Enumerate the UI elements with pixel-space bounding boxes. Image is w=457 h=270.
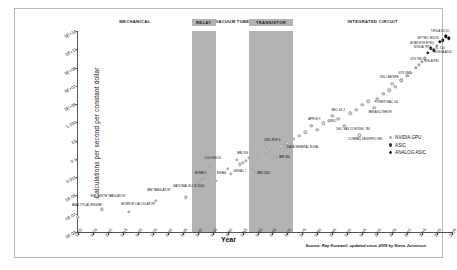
data-point: [214, 179, 217, 182]
data-point: [399, 79, 402, 82]
y-tick-mark: [76, 122, 78, 123]
y-tick-mark: [76, 159, 78, 160]
y-tick-mark: [76, 86, 78, 87]
data-point: [298, 134, 301, 137]
data-point: [310, 124, 313, 127]
legend-item: NVIDIA GPU: [389, 135, 426, 140]
data-point: [304, 131, 307, 134]
legend-item: ANALOG ASIC: [389, 150, 426, 155]
data-point-label: NEC SX-2: [331, 110, 345, 113]
data-point: [322, 122, 325, 125]
chart-frame: Calculations per second per constant dol…: [14, 8, 443, 258]
data-point: [408, 71, 411, 74]
era-label-vacuum-tube: VACUUM TUBE: [216, 19, 249, 24]
plot-area: MECHANICALRELAYVACUUM TUBETRANSISTORINTE…: [77, 31, 452, 233]
era-band-relay: [192, 31, 216, 232]
data-point: [381, 92, 384, 95]
data-point: [331, 114, 334, 117]
data-point: [417, 63, 420, 66]
data-point: [355, 108, 358, 111]
data-point-label: IBM 360: [279, 156, 290, 159]
data-point: [244, 159, 247, 162]
y-tick-mark: [76, 177, 78, 178]
data-point: [393, 85, 396, 88]
y-tick-mark: [76, 141, 78, 142]
era-label-mechanical: MECHANICAL: [78, 19, 192, 24]
legend-label: ASIC: [395, 143, 406, 148]
y-tick-mark: [76, 68, 78, 69]
data-point-label: DATA GENERAL NOVA: [287, 146, 318, 149]
data-point-label: IBM TABULATOR: [147, 189, 170, 192]
legend-item: ASIC: [389, 143, 426, 148]
era-label-integrated-circuit: INTEGRATED CIRCUIT: [293, 19, 452, 24]
legend-swatch-nvidia: [389, 136, 392, 139]
data-point-label: IBM ASCI WHITE: [369, 112, 392, 115]
data-point-label: NATIONAL ELLIS 3000: [173, 186, 204, 189]
data-point-label: TESLA DOJO: [431, 30, 449, 33]
legend-label: NVIDIA GPU: [395, 135, 421, 140]
data-point-label: NVIDIA TPU: [414, 47, 431, 50]
era-label-transistor: TRANSISTOR: [249, 19, 294, 26]
data-point: [426, 51, 429, 54]
data-point: [367, 100, 370, 103]
data-point: [447, 37, 450, 40]
y-tick-label: 0.1: [69, 157, 77, 164]
era-label-relay: RELAY: [192, 19, 216, 26]
legend-label: ANALOG ASIC: [395, 150, 426, 155]
y-tick-mark: [76, 104, 78, 105]
data-point: [100, 207, 103, 210]
data-point: [184, 196, 187, 199]
data-point-label: HOLLERITH TABULATOR: [91, 196, 126, 199]
data-point-label: MYTHIC M1076: [417, 38, 438, 41]
data-point: [235, 158, 238, 161]
data-point: [229, 172, 232, 175]
data-point-label: CELL BE/SPE: [380, 76, 399, 79]
data-point: [154, 199, 157, 202]
legend-swatch-asic: [389, 143, 392, 146]
data-point: [316, 128, 319, 131]
data-point-label: COLOSSUS: [204, 157, 220, 160]
data-point: [337, 117, 340, 120]
data-point: [349, 112, 352, 115]
y-tick-mark: [76, 214, 78, 215]
data-point: [373, 106, 376, 109]
data-point: [414, 66, 417, 69]
data-point-label: COMPAQ DESKPRO 386: [348, 138, 382, 141]
legend: NVIDIA GPUASICANALOG ASIC: [389, 135, 426, 158]
x-tick-label: 2025: [448, 227, 457, 238]
data-point: [292, 137, 295, 140]
data-point: [441, 38, 444, 41]
data-point-label: APPLE II: [308, 118, 320, 121]
data-point-label: POWER MAC G4: [374, 102, 397, 105]
source-note: Source: Ray Kurzweil, updated since 2008…: [305, 243, 426, 248]
data-point: [387, 89, 390, 92]
data-point-label: MONROE CALCULATOR: [121, 203, 155, 206]
data-point: [405, 74, 408, 77]
y-tick-mark: [76, 49, 78, 50]
data-point: [226, 167, 229, 170]
data-point-label: TESLA P40: [423, 60, 438, 63]
data-point-label: NVIDIA A100: [434, 51, 451, 54]
y-tick-mark: [76, 31, 78, 32]
data-point: [76, 216, 79, 219]
x-axis-title: Year: [15, 236, 442, 243]
era-band-transistor: [249, 31, 294, 232]
data-point: [361, 103, 364, 106]
data-point-label: IBM 1620: [257, 172, 270, 175]
data-point-label: DEC PDP-4: [265, 139, 281, 142]
data-point-label: MOBILEYE EYEQ: [410, 42, 434, 45]
data-point-label: IBM 704: [237, 153, 248, 156]
legend-swatch-analog: [389, 151, 392, 154]
y-tick-mark: [76, 195, 78, 196]
data-point-label: ANALYTICAL ENGINE: [72, 204, 102, 207]
data-point-label: DEC VAX 11 MODEL 780: [336, 128, 370, 131]
data-point: [127, 210, 130, 213]
data-point-label: UNIVAC I: [233, 170, 246, 173]
y-tick-label: 10: [71, 138, 78, 145]
